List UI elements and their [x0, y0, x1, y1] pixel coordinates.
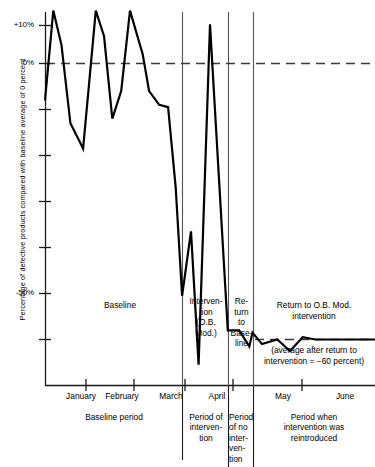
caption-period-of-no-intervention-line1: Period: [229, 412, 254, 422]
y-tick-label-minus50: -50%: [0, 288, 34, 297]
plot-label-return-line1: Re-: [229, 296, 254, 307]
plot-label-reintroduction-line2: intervention: [254, 311, 374, 322]
caption-period-of-no-intervention-line2: of no: [229, 422, 254, 432]
caption-period-reintroduced-line1: Period when: [254, 412, 374, 422]
caption-period-reintroduced: Period when intervention was reintroduce…: [254, 412, 374, 443]
x-tick-label-april: April: [186, 391, 248, 401]
caption-period-reintroduced-line2: intervention was: [254, 422, 374, 432]
plot-annotation-average-line2: intervention = −60 percent): [252, 356, 375, 367]
plot-label-return-line4: Base-: [229, 328, 254, 339]
plot-label-intervention-line1: Interven-: [184, 296, 228, 307]
plot-annotation-average-line1: (average after return to: [252, 345, 375, 356]
plot-label-return-line3: to: [229, 317, 254, 328]
plot-label-reintroduction-line1: Return to O.B. Mod.: [254, 300, 374, 311]
x-tick-label-may: May: [254, 391, 312, 401]
plot-label-intervention-line2: tion: [184, 307, 228, 318]
caption-period-of-intervention-line2: interven-: [184, 422, 228, 432]
plot-label-return-line2: turn: [229, 307, 254, 318]
plot-label-baseline: Baseline: [60, 300, 180, 311]
plot-label-intervention-line3: (O.B.: [184, 317, 228, 328]
caption-period-of-intervention: Period of interven- tion: [184, 412, 228, 443]
caption-baseline-period: Baseline period: [46, 412, 182, 422]
y-tick-label-zero: 0%: [0, 58, 34, 67]
plot-label-intervention: Interven- tion (O.B. Mod.): [184, 296, 228, 338]
plot-label-return-baseline: Re- turn to Base- line: [229, 296, 254, 349]
caption-period-reintroduced-line3: reintroduced: [254, 433, 374, 443]
x-tick-label-june: June: [320, 391, 370, 401]
plot-annotation-average: (average after return to intervention = …: [252, 345, 375, 366]
caption-period-of-no-intervention-line4: ven-: [229, 443, 254, 453]
caption-period-of-no-intervention-line5: tion: [229, 454, 254, 464]
caption-period-of-intervention-line1: Period of: [184, 412, 228, 422]
caption-period-of-no-intervention: Period of no inter- ven- tion: [229, 412, 254, 464]
plot-label-return-line5: line: [229, 338, 254, 349]
caption-period-of-no-intervention-line3: inter-: [229, 433, 254, 443]
plot-label-reintroduction: Return to O.B. Mod. intervention: [254, 300, 374, 321]
y-tick-label-plus10: +10%: [0, 20, 34, 29]
plot-label-intervention-line4: Mod.): [184, 328, 228, 339]
caption-period-of-intervention-line3: tion: [184, 433, 228, 443]
